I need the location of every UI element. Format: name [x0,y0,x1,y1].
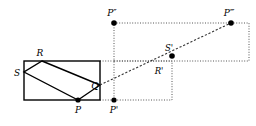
label-s-prime: S' [165,43,173,53]
label-r-prime: R' [154,66,164,76]
label-q: Q [91,81,99,91]
label-p-double-prime: P″ [106,8,117,18]
point-marker-s-prime [169,53,175,59]
point-marker-p-double-prime [111,20,117,26]
label-p: P [74,105,82,115]
projection-ray [100,23,231,85]
point-marker-p-prime [111,97,116,102]
point-marker-p [75,97,80,102]
geometry-diagram: R S P Q P' P″ P‴ R' S' [0,0,256,126]
label-p-prime: P' [109,105,119,115]
point-marker-p-triple-prime [228,20,234,26]
label-r: R [36,48,44,58]
inscribed-parallelogram [24,61,100,100]
label-s: S [14,68,20,78]
upper-dotted-rectangle [114,23,249,61]
figure-canvas: R S P Q P' P″ P‴ R' S' [0,0,256,126]
label-p-triple-prime: P‴ [223,8,235,18]
